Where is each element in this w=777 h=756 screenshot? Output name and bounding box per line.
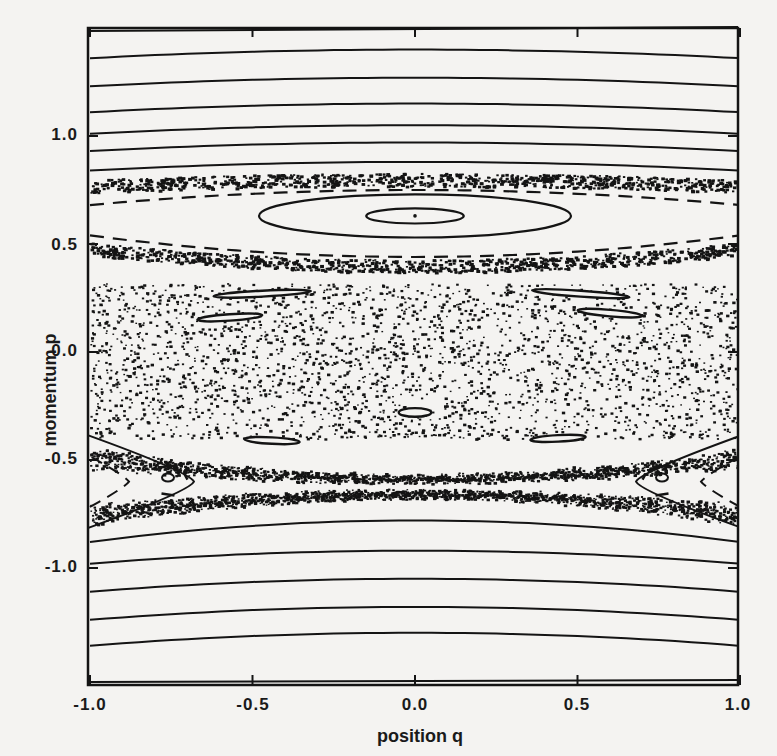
invariant-curve bbox=[90, 633, 740, 646]
x-axis-label: position q bbox=[345, 726, 495, 747]
invariant-curve bbox=[90, 143, 740, 152]
invariant-curve bbox=[90, 50, 740, 59]
figure: 1.0 0.5 0.0 -0.5 -1.0 -1.0 -0.5 0.0 0.5 … bbox=[0, 0, 777, 756]
x-tick-label: 1.0 bbox=[708, 695, 768, 715]
y-tick-label: -1.0 bbox=[18, 557, 78, 577]
invariant-curve bbox=[90, 551, 740, 564]
invariant-curve bbox=[90, 162, 740, 171]
inner-island bbox=[162, 474, 174, 482]
island-orbit bbox=[244, 436, 300, 445]
x-tick-label: -1.0 bbox=[60, 695, 120, 715]
invariant-curve bbox=[90, 125, 740, 134]
separatrix-lobe bbox=[84, 434, 195, 530]
invariant-curve bbox=[90, 78, 740, 87]
plot-area bbox=[74, 17, 757, 646]
y-axis-label: momentum p bbox=[40, 310, 61, 470]
separatrix-lobe bbox=[636, 434, 747, 530]
island-orbit bbox=[577, 307, 642, 319]
island-orbit bbox=[530, 434, 586, 443]
island-orbit bbox=[399, 408, 432, 417]
invariant-curve bbox=[90, 104, 740, 113]
x-tick-label: 0.5 bbox=[547, 695, 607, 715]
invariant-curve bbox=[90, 607, 740, 620]
dashed-separatrix bbox=[90, 190, 740, 205]
elliptic-fixed-point bbox=[413, 214, 417, 218]
invariant-curve bbox=[90, 521, 740, 543]
frame-bottom-inner bbox=[88, 680, 738, 682]
y-tick-label: 1.0 bbox=[18, 125, 78, 145]
y-tick-label: 0.5 bbox=[18, 235, 78, 255]
invariant-curve bbox=[90, 17, 740, 26]
phase-space-plot bbox=[0, 0, 777, 756]
island-orbit bbox=[197, 312, 262, 323]
x-tick-label: -0.5 bbox=[223, 695, 283, 715]
x-tick-label: 0.0 bbox=[385, 695, 445, 715]
invariant-curve bbox=[90, 579, 740, 592]
plot-frame bbox=[88, 28, 738, 685]
